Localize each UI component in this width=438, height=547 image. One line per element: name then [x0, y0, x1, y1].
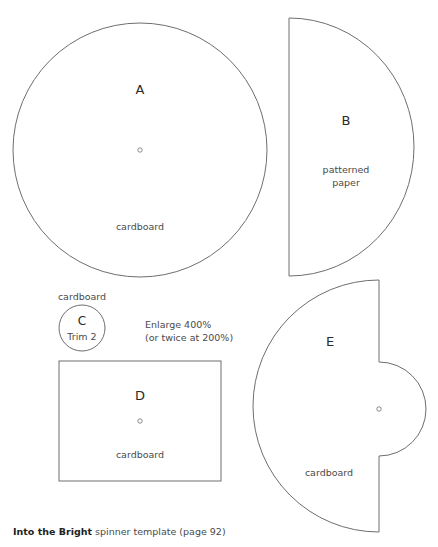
template-shapes: [0, 0, 438, 547]
piece-b-material-line1: patterned: [323, 163, 370, 176]
piece-d-label: D: [135, 389, 145, 402]
piece-a-label: A: [136, 83, 145, 96]
piece-a-center-hole: [138, 148, 142, 152]
piece-c-outline: [59, 305, 105, 351]
caption-title: Into the Bright: [13, 526, 92, 537]
caption: Into the Bright spinner template (page 9…: [13, 526, 226, 537]
enlarge-note-line2: (or twice at 200%): [145, 331, 233, 344]
piece-e-center-hole: [377, 407, 381, 411]
piece-d-material: cardboard: [116, 448, 164, 461]
piece-e-outline: [253, 280, 426, 532]
enlarge-note-line1: Enlarge 400%: [145, 318, 211, 331]
piece-c-note: Trim 2: [67, 330, 96, 343]
piece-d-outline: [59, 361, 221, 481]
piece-d-center-hole: [138, 419, 142, 423]
piece-c-material: cardboard: [58, 290, 106, 303]
piece-a-material: cardboard: [116, 220, 164, 233]
piece-b-label: B: [342, 114, 351, 127]
piece-c-label: C: [78, 315, 86, 328]
piece-a-outline: [13, 23, 267, 277]
piece-b-material-line2: paper: [332, 176, 360, 189]
piece-e-material: cardboard: [305, 466, 353, 479]
piece-b-outline: [289, 18, 414, 276]
caption-rest: spinner template (page 92): [92, 526, 226, 537]
piece-e-label: E: [326, 335, 334, 348]
